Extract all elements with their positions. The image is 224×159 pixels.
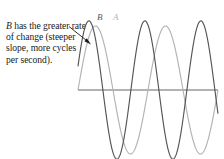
figure-container: B has the greater rate of change (steepe… bbox=[0, 0, 224, 159]
wave-plot bbox=[0, 0, 224, 159]
annotation-arrow-icon bbox=[69, 27, 91, 45]
